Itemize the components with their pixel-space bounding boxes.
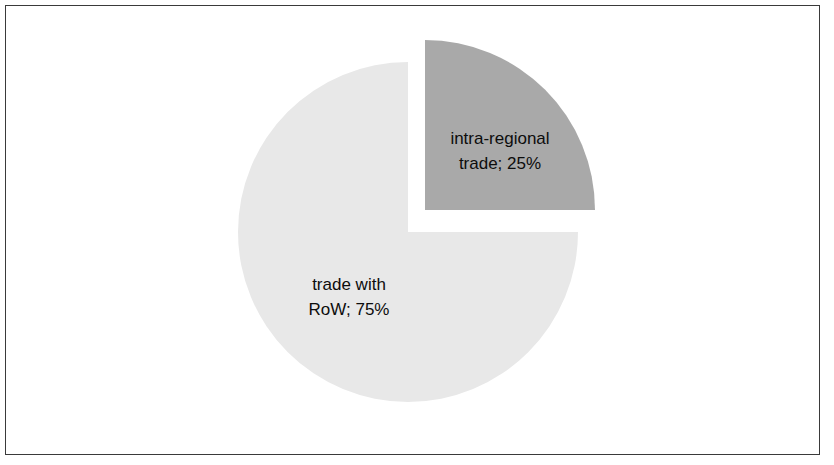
pie-slice-intra-regional-trade[interactable] — [425, 40, 595, 210]
slice-label-trade-with-row: trade with RoW; 75% — [264, 272, 434, 322]
pie-chart-graphic — [0, 0, 834, 465]
pie-chart-figure: intra-regional trade; 25% trade with RoW… — [0, 0, 834, 465]
slice-label-intra-regional-trade: intra-regional trade; 25% — [418, 126, 582, 176]
